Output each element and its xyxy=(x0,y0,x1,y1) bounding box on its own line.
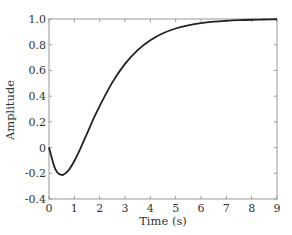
y-tick-label: 0.8 xyxy=(29,39,47,52)
y-tick-label: 0.4 xyxy=(29,90,47,103)
plot-frame xyxy=(49,19,277,199)
y-tick-label: -0.2 xyxy=(25,167,46,180)
y-tick-labels: -0.4-0.200.20.40.60.81.0 xyxy=(25,13,46,206)
x-tick-label: 3 xyxy=(122,202,129,215)
x-tick-label: 6 xyxy=(198,202,205,215)
y-tick-label: -0.4 xyxy=(25,193,46,206)
x-tick-label: 7 xyxy=(223,202,230,215)
y-axis-label: Amplitude xyxy=(3,80,17,141)
axis-ticks xyxy=(49,19,277,199)
y-tick-label: 0.6 xyxy=(29,64,47,77)
x-tick-label: 1 xyxy=(71,202,78,215)
y-tick-label: 0.2 xyxy=(29,116,47,129)
x-tick-label: 9 xyxy=(274,202,281,215)
step-response-chart: 0123456789 -0.4-0.200.20.40.60.81.0 Time… xyxy=(0,0,292,235)
axes-box xyxy=(49,19,277,199)
step-response-curve xyxy=(49,19,277,175)
x-tick-label: 2 xyxy=(96,202,103,215)
x-tick-label: 0 xyxy=(46,202,53,215)
x-tick-label: 8 xyxy=(248,202,255,215)
y-tick-label: 0 xyxy=(39,142,46,155)
x-axis-label: Time (s) xyxy=(139,214,187,228)
y-tick-label: 1.0 xyxy=(29,13,47,26)
